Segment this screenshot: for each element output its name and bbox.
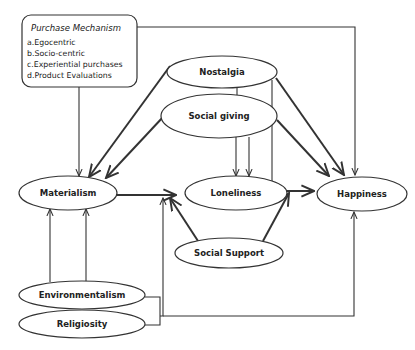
node-materialism: Materialism — [19, 176, 117, 210]
purchase-item-egocentric: a.Egocentric — [27, 38, 76, 47]
node-social-giving: Social giving — [161, 94, 277, 138]
purchase-item-experiential: c.Experiential purchases — [27, 60, 123, 69]
node-environmentalism-label: Environmentalism — [39, 290, 126, 300]
purchase-item-sociocentric: b.Socio-centric — [27, 49, 85, 58]
node-materialism-label: Materialism — [40, 188, 97, 198]
node-religiosity-label: Religiosity — [57, 319, 108, 329]
purchase-mechanism-title: Purchase Mechanism — [31, 23, 121, 33]
node-social-support-label: Social Support — [194, 248, 264, 258]
edge-nostalgia-happiness — [276, 78, 344, 175]
conceptual-model-diagram: Purchase Mechanism a.Egocentric b.Socio-… — [0, 0, 415, 350]
node-environmentalism: Environmentalism — [19, 281, 145, 309]
node-nostalgia-label: Nostalgia — [199, 67, 245, 77]
node-nostalgia: Nostalgia — [167, 56, 277, 88]
edge-socialgiving-happiness — [277, 120, 329, 176]
edge-socialgiving-materialism — [106, 116, 164, 178]
node-loneliness: Loneliness — [185, 176, 287, 210]
purchase-item-product-evaluations: d.Product Evaluations — [27, 71, 112, 80]
edge-socialsupport-left — [170, 198, 198, 241]
edge-env-bracket — [145, 297, 160, 325]
node-social-support: Social Support — [175, 238, 283, 268]
node-loneliness-label: Loneliness — [211, 188, 262, 198]
node-social-giving-label: Social giving — [188, 111, 249, 121]
node-happiness-label: Happiness — [337, 189, 387, 199]
node-religiosity: Religiosity — [19, 310, 145, 338]
purchase-mechanism-box: Purchase Mechanism a.Egocentric b.Socio-… — [22, 15, 137, 87]
node-happiness: Happiness — [317, 177, 407, 211]
